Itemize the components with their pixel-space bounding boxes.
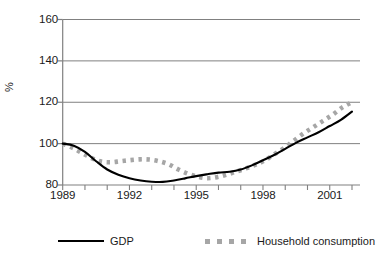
legend-item-household-consumption: Household consumption — [205, 232, 375, 250]
legend-label-household-consumption: Household consumption — [257, 235, 375, 247]
y-tick-label-160: 160 — [24, 14, 58, 26]
solid-line-swatch-icon — [58, 240, 104, 242]
legend-item-gdp: GDP — [58, 232, 134, 250]
y-tick-label-120: 120 — [24, 96, 58, 108]
series-line-gdp — [63, 112, 352, 182]
y-axis-title: % — [4, 82, 15, 92]
y-axis-ticks — [58, 20, 63, 186]
series-line-household-consumption — [63, 102, 352, 178]
y-tick-label-100: 100 — [24, 138, 58, 150]
x-tick-label-2001: 2001 — [310, 189, 350, 201]
x-tick-label-1998: 1998 — [243, 189, 283, 201]
y-tick-label-140: 140 — [24, 55, 58, 67]
x-tick-label-1995: 1995 — [176, 189, 216, 201]
legend-label-gdp: GDP — [110, 235, 134, 247]
x-tick-label-1989: 1989 — [43, 189, 83, 201]
x-axis-tick-labels: 19891992199519982001 — [0, 189, 361, 209]
chart-legend: GDP Household consumption — [0, 232, 361, 254]
dotted-line-swatch-icon — [205, 239, 251, 244]
x-tick-label-1992: 1992 — [109, 189, 149, 201]
